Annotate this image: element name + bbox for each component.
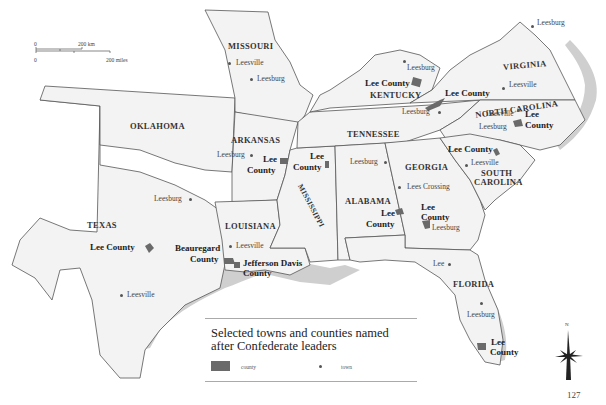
town-ar-leesburg[interactable]: Leesburg bbox=[217, 151, 245, 159]
town-dot bbox=[120, 294, 123, 297]
county-label-fl-lee-2[interactable]: County bbox=[490, 348, 519, 357]
county-label-ms-lee-1[interactable]: Lee bbox=[310, 152, 324, 161]
label-oklahoma: OKLAHOMA bbox=[130, 122, 185, 131]
county-label-nc-lee-2[interactable]: County bbox=[525, 121, 554, 130]
label-louisiana: LOUISIANA bbox=[225, 222, 276, 231]
legend-town-label: town bbox=[341, 364, 352, 370]
label-texas: TEXAS bbox=[87, 221, 117, 230]
compass-north-label: N bbox=[565, 322, 569, 327]
town-tn-leesburg[interactable]: Leesburg bbox=[402, 108, 430, 116]
county-label-ky-lee[interactable]: Lee County bbox=[365, 79, 410, 88]
town-va-leesville[interactable]: Leesville bbox=[509, 81, 537, 89]
town-dot bbox=[448, 263, 451, 266]
town-va-leesburg[interactable]: Leesburg bbox=[537, 19, 565, 27]
town-tx-leesburg[interactable]: Leesburg bbox=[154, 195, 182, 203]
town-fl-lee[interactable]: Lee bbox=[433, 260, 444, 268]
county-label-ar-lee-2[interactable]: County bbox=[247, 166, 276, 175]
county-label-la-beauregard-1[interactable]: Beauregard bbox=[175, 244, 220, 253]
county-label-la-jeff-davis-2[interactable]: County bbox=[243, 269, 272, 278]
scale-km-zero: 0 bbox=[34, 41, 37, 47]
page-number: 127 bbox=[567, 390, 581, 400]
compass-rose-icon bbox=[555, 330, 583, 380]
town-dot bbox=[531, 25, 534, 28]
map-legend: Selected towns and counties named after … bbox=[205, 318, 417, 382]
county-label-la-beauregard-2[interactable]: County bbox=[190, 255, 219, 264]
town-dot bbox=[250, 78, 253, 81]
town-la-leesville[interactable]: Leesville bbox=[236, 242, 264, 250]
label-georgia: GEORGIA bbox=[405, 163, 448, 172]
town-nc-leesburg[interactable]: Leesburg bbox=[479, 123, 507, 131]
town-dot bbox=[398, 186, 401, 189]
county-label-sc-lee[interactable]: Lee County bbox=[448, 145, 493, 154]
scale-bar bbox=[36, 47, 110, 53]
county-label-nc-lee-1[interactable]: Lee bbox=[525, 110, 539, 119]
county-label-va-lee[interactable]: Lee County bbox=[445, 89, 490, 98]
county-label-ar-lee-1[interactable]: Lee bbox=[263, 155, 277, 164]
town-al-leesburg[interactable]: Leesburg bbox=[350, 158, 378, 166]
label-kentucky: KENTUCKY bbox=[370, 91, 422, 100]
town-nc-leesville[interactable]: Leesville bbox=[486, 110, 514, 118]
county-label-ga-lee-2[interactable]: County bbox=[421, 213, 450, 222]
county-label-ms-lee-2[interactable]: County bbox=[293, 163, 322, 172]
scale-mi-zero: 0 bbox=[34, 57, 37, 63]
town-ky-leesburg[interactable]: Leesburg bbox=[407, 64, 435, 72]
town-dot bbox=[189, 198, 192, 201]
legend-title-line-2: after Confederate leaders bbox=[211, 340, 389, 353]
label-south-carolina-2: CAROLINA bbox=[474, 178, 523, 187]
label-arkansas: ARKANSAS bbox=[231, 136, 280, 145]
town-ga-lees-crossing[interactable]: Lees Crossing bbox=[407, 183, 450, 191]
county-label-al-lee-2[interactable]: County bbox=[366, 220, 395, 229]
town-fl-leesburg[interactable]: Leesburg bbox=[467, 311, 495, 319]
town-dot bbox=[502, 87, 505, 90]
label-alabama: ALABAMA bbox=[345, 197, 391, 206]
scale-mi-label: 200 miles bbox=[106, 57, 128, 63]
town-tx-leesville[interactable]: Leesville bbox=[127, 291, 155, 299]
town-dot-icon bbox=[319, 365, 322, 368]
legend-county-label: county bbox=[241, 364, 256, 370]
town-ga-leesburg[interactable]: Leesburg bbox=[432, 224, 460, 232]
county-swatch-icon bbox=[211, 361, 230, 371]
town-sc-leesville[interactable]: Leesville bbox=[471, 159, 499, 167]
label-florida: FLORIDA bbox=[453, 280, 494, 289]
town-mo-leesburg[interactable]: Leesburg bbox=[257, 75, 285, 83]
county-label-tx-lee[interactable]: Lee County bbox=[90, 243, 135, 252]
town-dot bbox=[465, 164, 468, 167]
town-dot bbox=[480, 302, 483, 305]
town-mo-leesville[interactable]: Leesville bbox=[236, 59, 264, 67]
town-dot bbox=[517, 109, 520, 112]
town-dot bbox=[403, 60, 406, 63]
town-dot bbox=[229, 245, 232, 248]
town-dot bbox=[228, 62, 231, 65]
town-dot bbox=[384, 161, 387, 164]
legend-title: Selected towns and counties named after … bbox=[211, 327, 389, 353]
county-ms-lee[interactable] bbox=[325, 161, 329, 168]
town-dot bbox=[250, 154, 253, 157]
county-fl-lee[interactable] bbox=[477, 343, 486, 350]
county-label-al-lee-1[interactable]: Lee bbox=[381, 209, 395, 218]
scale-km-label: 200 km bbox=[78, 41, 95, 47]
label-missouri: MISSOURI bbox=[228, 42, 273, 51]
county-ar-lee[interactable] bbox=[280, 158, 288, 164]
label-tennessee: TENNESSEE bbox=[347, 130, 400, 139]
county-la-jefferson-davis[interactable] bbox=[234, 262, 240, 268]
town-dot bbox=[438, 111, 441, 114]
